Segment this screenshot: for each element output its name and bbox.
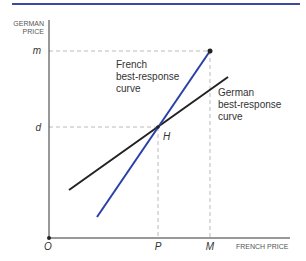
german-curve-label-line3: curve <box>218 111 243 122</box>
y-axis-label-line1: GERMAN <box>13 20 44 27</box>
y-tick-d: d <box>35 122 41 133</box>
top-point-dot <box>208 49 213 54</box>
equilibrium-dot <box>156 125 160 129</box>
german-curve-label-line1: German <box>218 87 254 98</box>
french-curve-label-line1: French <box>116 59 147 70</box>
origin-label: O <box>44 241 52 252</box>
german-best-response-curve <box>69 77 228 190</box>
x-axis-label: FRENCH PRICE <box>236 243 289 250</box>
y-axis-label-line2: PRICE <box>23 28 45 35</box>
equilibrium-label: H <box>163 131 171 142</box>
german-curve-label-line2: best-response <box>218 99 282 110</box>
origin-dot <box>47 236 51 240</box>
french-curve-label-line3: curve <box>116 83 141 94</box>
best-response-diagram: GERMAN PRICE FRENCH PRICE O P M m d H Fr… <box>0 0 306 261</box>
x-tick-P: P <box>155 241 162 252</box>
x-tick-M: M <box>206 241 215 252</box>
y-tick-m: m <box>33 45 41 56</box>
french-curve-label-line2: best-response <box>116 71 180 82</box>
